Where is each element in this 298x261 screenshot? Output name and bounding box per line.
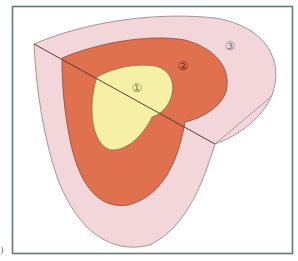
zone-label-1: ① [132,81,143,95]
zone-diagram: ① ② ③ [0,0,298,261]
zone-label-3: ③ [225,39,236,53]
margin-mark: ) [0,244,4,255]
zone-label-2: ② [178,59,189,73]
